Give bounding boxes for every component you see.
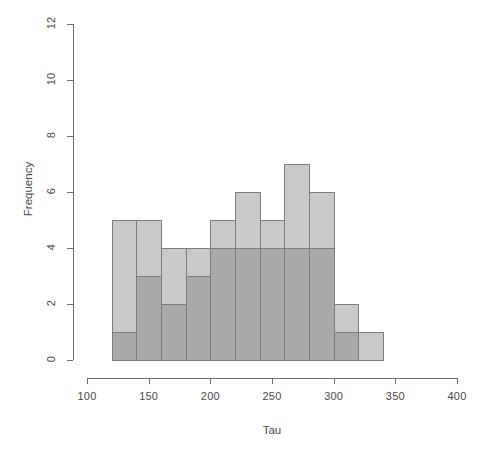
y-axis-line bbox=[73, 24, 74, 360]
histogram-bar bbox=[284, 248, 310, 361]
y-tick-label: 0 bbox=[45, 348, 57, 370]
y-tick-mark bbox=[67, 360, 73, 361]
x-tick-mark bbox=[149, 378, 150, 384]
x-tick-mark bbox=[272, 378, 273, 384]
x-tick-label: 350 bbox=[375, 390, 415, 402]
y-tick-label: 8 bbox=[45, 124, 57, 146]
x-tick-mark bbox=[395, 378, 396, 384]
histogram-bar bbox=[260, 248, 286, 361]
y-axis-title: Frequency bbox=[22, 144, 34, 234]
x-tick-mark bbox=[87, 378, 88, 384]
histogram-bar bbox=[334, 332, 360, 361]
y-tick-label: 2 bbox=[45, 292, 57, 314]
x-tick-mark bbox=[334, 378, 335, 384]
x-tick-label: 150 bbox=[129, 390, 169, 402]
histogram-plot: 024681012 100150200250300350400 Frequenc… bbox=[0, 0, 496, 454]
y-tick-mark bbox=[67, 248, 73, 249]
y-tick-mark bbox=[67, 304, 73, 305]
histogram-bar bbox=[186, 276, 212, 361]
x-tick-label: 200 bbox=[190, 390, 230, 402]
histogram-bar bbox=[112, 332, 138, 361]
y-tick-mark bbox=[67, 80, 73, 81]
x-tick-label: 100 bbox=[67, 390, 107, 402]
histogram-bar bbox=[136, 276, 162, 361]
histogram-bar bbox=[210, 248, 236, 361]
histogram-bar bbox=[309, 248, 335, 361]
x-tick-mark bbox=[457, 378, 458, 384]
bars-layer bbox=[0, 0, 496, 454]
x-tick-mark bbox=[210, 378, 211, 384]
x-tick-label: 250 bbox=[252, 390, 292, 402]
histogram-bar bbox=[358, 332, 384, 361]
x-tick-label: 300 bbox=[314, 390, 354, 402]
x-axis-title: Tau bbox=[232, 424, 312, 436]
x-tick-label: 400 bbox=[437, 390, 477, 402]
histogram-bar bbox=[235, 248, 261, 361]
y-tick-label: 6 bbox=[45, 180, 57, 202]
y-tick-mark bbox=[67, 136, 73, 137]
y-tick-mark bbox=[67, 24, 73, 25]
histogram-bar bbox=[161, 304, 187, 361]
y-tick-label: 10 bbox=[45, 68, 57, 90]
y-tick-label: 12 bbox=[45, 12, 57, 34]
y-tick-label: 4 bbox=[45, 236, 57, 258]
y-tick-mark bbox=[67, 192, 73, 193]
